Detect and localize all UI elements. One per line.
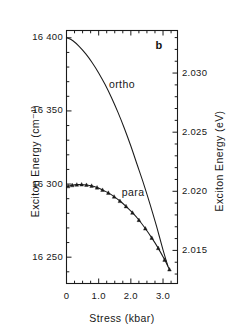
axis-ticks (67, 31, 178, 284)
series-label-para: para (122, 186, 145, 198)
y-tick-label-right: 2.030 (182, 67, 207, 78)
data-series (66, 38, 171, 271)
y-tick-label-left: 16 300 (32, 178, 63, 189)
series-line-ortho (67, 38, 168, 266)
y-tick-label-left: 16 350 (32, 104, 63, 115)
plot-frame (67, 31, 178, 284)
exciton-energy-stress-chart: Exciton Energy (cm⁻¹) Exciton Energy (eV… (0, 0, 234, 334)
series-label-ortho: ortho (109, 78, 135, 90)
x-tick-label: 2.0 (116, 290, 146, 301)
series-para (66, 182, 171, 271)
y-tick-label-right: 2.020 (182, 185, 207, 196)
panel-label-b: b (156, 39, 163, 51)
y-tick-label-right: 2.015 (182, 244, 207, 255)
y-tick-label-left: 16 250 (32, 251, 63, 262)
series-line-para (68, 184, 169, 269)
series-ortho (67, 38, 168, 266)
y-tick-label-left: 16 400 (32, 31, 63, 42)
plot-area (0, 0, 234, 334)
x-tick-label: 3.0 (148, 290, 178, 301)
x-tick-label: 1.0 (84, 290, 114, 301)
y-tick-label-right: 2.025 (182, 126, 207, 137)
x-tick-label: 0 (52, 290, 82, 301)
axes-frame (67, 31, 178, 284)
